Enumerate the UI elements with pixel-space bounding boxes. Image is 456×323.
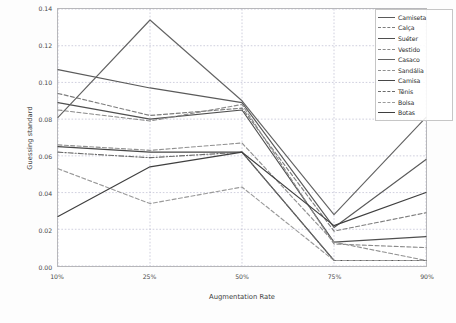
series-line-sandlia bbox=[58, 143, 426, 260]
legend-item[interactable]: Bolsa bbox=[378, 97, 450, 108]
series-layer bbox=[58, 9, 426, 266]
x-tick-label: 50% bbox=[235, 273, 248, 280]
legend-item-label: Botas bbox=[398, 109, 415, 116]
series-line-botas bbox=[58, 152, 426, 225]
legend-line-swatch bbox=[378, 38, 395, 39]
legend-item-label: Vestido bbox=[398, 46, 420, 53]
legend-line-swatch bbox=[378, 59, 395, 60]
x-tick-label: 25% bbox=[143, 273, 156, 280]
y-axis-title-wrap: Guessing standard bbox=[14, 0, 28, 275]
legend-item[interactable]: Sandália bbox=[378, 65, 450, 76]
legend-item-label: Bolsa bbox=[398, 99, 414, 106]
legend-line-swatch bbox=[378, 102, 395, 103]
legend-item[interactable]: Suéter bbox=[378, 33, 450, 44]
series-line-bolsa bbox=[58, 169, 426, 261]
legend-item[interactable]: Camiseta bbox=[378, 12, 450, 23]
legend-item-label: Camiseta bbox=[398, 14, 426, 21]
series-line-tnis bbox=[58, 152, 426, 260]
legend-item-label: Camisa bbox=[398, 77, 420, 84]
legend-item-label: Suéter bbox=[398, 35, 418, 42]
chart-figure: 0.000.020.040.060.080.100.120.14 Guessin… bbox=[0, 0, 456, 323]
legend-item-label: Calça bbox=[398, 24, 415, 31]
legend-line-swatch bbox=[378, 91, 395, 92]
series-line-cala bbox=[58, 93, 426, 231]
x-axis-tick-labels: 10%25%50%75%90% bbox=[0, 273, 456, 287]
legend-item-label: Sandália bbox=[398, 67, 424, 74]
series-line-suter bbox=[58, 103, 426, 243]
legend-item[interactable]: Tênis bbox=[378, 86, 450, 97]
legend-item[interactable]: Camisa bbox=[378, 76, 450, 87]
legend-item-label: Tênis bbox=[398, 88, 413, 95]
plot-area bbox=[57, 8, 427, 267]
legend-line-swatch bbox=[378, 27, 395, 28]
y-axis-title: Guessing standard bbox=[26, 78, 34, 198]
x-tick-label: 90% bbox=[420, 273, 433, 280]
legend-item[interactable]: Casaco bbox=[378, 54, 450, 65]
legend-line-swatch bbox=[378, 112, 395, 113]
legend-item[interactable]: Botas bbox=[378, 107, 450, 118]
x-tick-label: 10% bbox=[50, 273, 63, 280]
x-axis-title: Augmentation Rate bbox=[57, 293, 427, 301]
legend-item[interactable]: Vestido bbox=[378, 44, 450, 55]
series-line-casaco bbox=[58, 20, 426, 215]
x-tick-label: 75% bbox=[328, 273, 341, 280]
legend-line-swatch bbox=[378, 49, 395, 50]
chart-legend: CamisetaCalçaSuéterVestidoCasacoSandália… bbox=[375, 9, 453, 121]
legend-line-swatch bbox=[378, 17, 395, 18]
legend-line-swatch bbox=[378, 70, 395, 71]
legend-line-swatch bbox=[378, 80, 395, 81]
legend-item[interactable]: Calça bbox=[378, 23, 450, 34]
series-line-camisa bbox=[58, 147, 426, 261]
legend-item-label: Casaco bbox=[398, 56, 420, 63]
